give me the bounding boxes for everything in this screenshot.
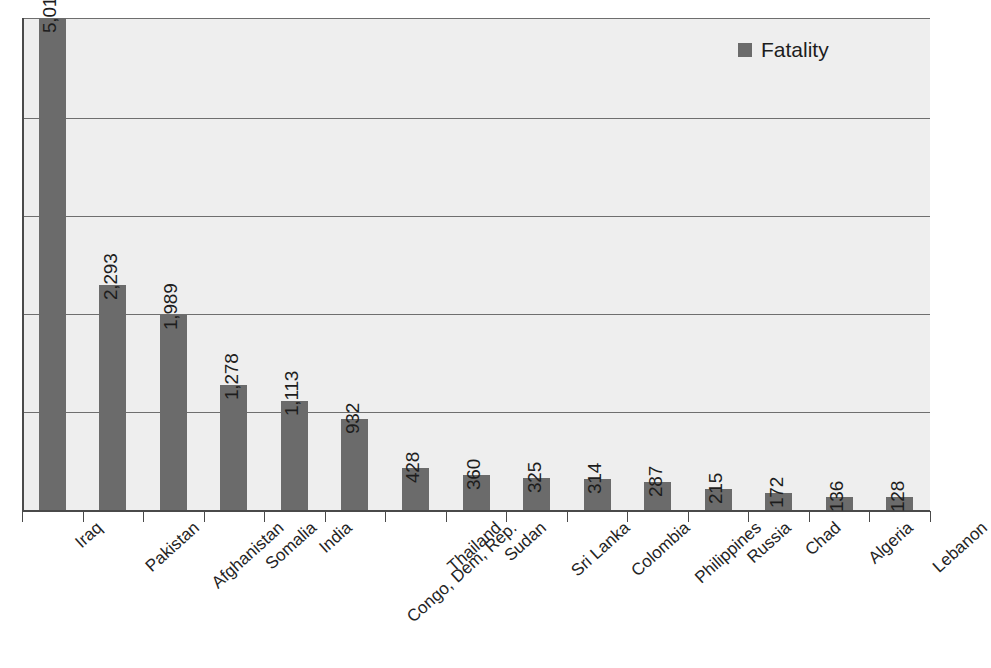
bar-value-label: 128: [887, 481, 909, 512]
category-label: Lebanon: [929, 518, 991, 577]
bar: [99, 285, 126, 510]
bar: [39, 18, 66, 510]
legend-swatch-fatality: [738, 43, 752, 57]
x-axis-line: [22, 510, 930, 512]
bar-value-label: 172: [766, 477, 788, 508]
legend-label-fatality: Fatality: [761, 38, 829, 62]
bar-value-label: 314: [584, 463, 606, 494]
bars-container: 5,0162,2931,9891,2781,113932428360325314…: [22, 18, 930, 510]
bar-value-label: 1,278: [221, 353, 243, 400]
bar-value-label: 215: [705, 473, 727, 504]
x-axis-category-labels: IraqPakistanAfghanistanSomaliaIndiaCongo…: [22, 514, 930, 664]
x-axis-tick: [930, 511, 931, 522]
bar-value-label: 136: [826, 481, 848, 512]
category-label: Algeria: [865, 518, 918, 568]
bar-value-label: 2,293: [100, 254, 122, 301]
category-label: Chad: [801, 518, 845, 560]
bar-value-label: 287: [645, 466, 667, 497]
bar-value-label: 932: [342, 402, 364, 433]
bar-value-label: 325: [524, 462, 546, 493]
chart-legend: Fatality: [738, 38, 829, 62]
bar-value-label: 5,016: [39, 0, 61, 33]
bar: [160, 315, 187, 510]
bar: [220, 385, 247, 510]
category-label: Iraq: [72, 518, 107, 552]
category-label: Pakistan: [142, 518, 204, 576]
category-label: Colombia: [628, 518, 695, 581]
category-label: Sri Lanka: [567, 518, 634, 581]
bar: [281, 401, 308, 510]
bar-value-label: 1,113: [281, 371, 303, 416]
category-label: India: [316, 518, 357, 558]
bar-value-label: 1,989: [160, 283, 182, 330]
bar-value-label: 360: [463, 459, 485, 490]
bar-value-label: 428: [402, 452, 424, 483]
